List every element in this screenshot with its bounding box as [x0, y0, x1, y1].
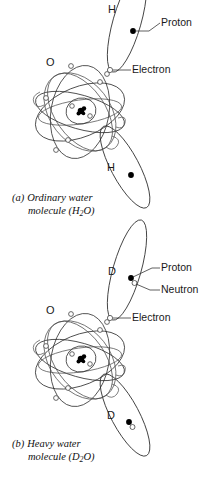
deuterium-orbital-lobe-bottom	[91, 368, 159, 462]
oxygen-electron-1	[69, 64, 74, 69]
panel-b-artwork	[27, 216, 160, 462]
shared-electron-top-b	[107, 315, 112, 320]
orbit-cusp-lower-right	[106, 136, 119, 149]
orbit-cusp-left-b	[33, 340, 44, 355]
panel-b-callout-electron: Electron	[132, 312, 171, 323]
neutron-leader-line-b	[136, 284, 160, 290]
oxygen-electron-3-b	[44, 344, 49, 349]
panel-a-caption-line1: Ordinary water	[27, 192, 92, 203]
panel-b-label-o: O	[46, 305, 55, 316]
panel-a-caption-line2-pre: molecule (H	[28, 205, 80, 216]
oxygen-electron-5-b	[54, 396, 59, 401]
panel-b-callout-neutron: Neutron	[161, 284, 198, 295]
panel-b-label-d-bottom: D	[107, 410, 115, 421]
molecule-line-art	[0, 0, 210, 490]
oxygen-electron-5	[54, 148, 59, 153]
oxygen-inner-electron-2-b	[88, 362, 93, 367]
hydrogen-proton-bottom	[128, 172, 134, 178]
deuterium-proton-top	[128, 275, 134, 281]
oxygen-nucleus-b	[77, 354, 87, 363]
panel-b-caption-line1: Heavy water	[27, 438, 80, 449]
hydrogen-orbital-lobe-bottom	[91, 120, 159, 214]
oxygen-electron-2	[98, 80, 103, 85]
panel-a-label-h-top: H	[108, 4, 116, 15]
orbit-cusp-left	[33, 92, 44, 107]
deuterium-neutron-bottom	[130, 425, 135, 430]
panel-a-caption-tag: (a)	[12, 192, 24, 203]
panel-a-caption-line2: molecule (H2O)	[12, 204, 95, 218]
deuterium-neutron-top	[132, 281, 137, 286]
panel-a-caption-line2-post: O)	[83, 205, 94, 216]
oxygen-electron-4-b	[66, 386, 71, 391]
oxygen-electron-3	[44, 96, 49, 101]
panel-b-caption: (b)Heavy water molecule (D2O)	[12, 437, 95, 464]
oxygen-inner-electron-2	[88, 114, 93, 119]
deuterium-proton-bottom	[126, 419, 132, 425]
panel-b-caption-tag: (b)	[12, 438, 24, 449]
oxygen-electron-2-b	[98, 328, 103, 333]
panel-a-artwork	[27, 0, 160, 214]
panel-a-label-o: O	[46, 57, 55, 68]
oxygen-inner-electron-1	[70, 104, 75, 109]
panel-a-callout-proton: Proton	[161, 17, 192, 28]
oxygen-nucleus	[77, 106, 87, 115]
panel-a-label-h-bottom: H	[107, 162, 115, 173]
orbit-cusp-lower-right-b	[106, 384, 119, 397]
proton-leader-line-b	[133, 268, 160, 277]
panel-b-caption-line2: molecule (D2O)	[12, 450, 95, 464]
oxygen-electron-1-b	[69, 312, 74, 317]
panel-b-caption-line2-post: O)	[83, 451, 94, 462]
oxygen-electron-4	[66, 138, 71, 143]
hydrogen-proton-top	[130, 28, 136, 34]
panel-b-caption-line2-pre: molecule (D	[28, 451, 80, 462]
panel-b-label-d-top: D	[108, 266, 116, 277]
panel-a-caption: (a)Ordinary water molecule (H2O)	[12, 191, 95, 218]
panel-a-callout-electron: Electron	[132, 64, 171, 75]
shared-electron-top	[107, 67, 112, 72]
water-molecule-figure: H O H Proton Electron (a)Ordinary water …	[0, 0, 210, 490]
oxygen-inner-electron-1-b	[70, 352, 75, 357]
panel-b-callout-proton: Proton	[161, 262, 192, 273]
